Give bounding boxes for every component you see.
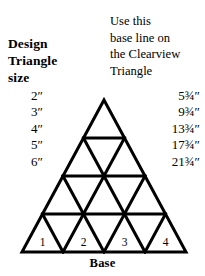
internal-diagonal-left-r3-a [84,176,105,214]
internal-diagonal-right-r2 [84,138,105,176]
internal-diagonal-right-r3-a [63,176,84,214]
left-heading-line-3: size [8,69,86,86]
bottom-cell-number: 3 [122,236,128,248]
base-label: Base [0,256,205,271]
design-triangle-size-heading: Design Triangle size [8,35,86,86]
triangle-svg: 1 2 3 4 [14,94,194,258]
left-heading-line-1: Design [8,35,86,52]
right-heading-line-2: base line on [110,30,205,47]
clearview-triangle-diagram-page: Design Triangle size Use this base line … [0,0,205,276]
right-heading-line-3: the Clearview [110,46,205,63]
internal-diagonal-right-r3-b [104,176,125,214]
right-heading-line-4: Triangle [110,63,205,80]
bottom-cell-number: 2 [81,236,87,248]
base-line-instruction-heading: Use this base line on the Clearview Tria… [110,13,205,79]
internal-diagonal-right-r4-c [125,214,146,252]
internal-diagonal-left-r3-b [125,176,146,214]
right-heading-line-1: Use this [110,13,205,30]
subdivided-triangle-figure: 1 2 3 4 [14,94,194,258]
bottom-cell-number: 4 [163,236,169,248]
left-heading-line-2: Triangle [8,52,86,69]
internal-diagonal-left-r2 [104,138,125,176]
internal-diagonal-right-r4-a [43,214,64,252]
internal-diagonal-right-r4-b [84,214,105,252]
bottom-cell-number: 1 [40,236,46,248]
